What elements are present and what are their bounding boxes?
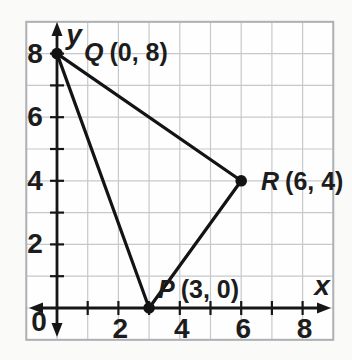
coordinate-plane-svg: 246886420xyQ(0, 8)R(6, 4)P(3, 0) [0,0,352,360]
point-label-P: P(3, 0) [158,275,239,303]
x-tick-label-8: 8 [297,313,313,344]
x-tick-label-4: 4 [174,313,190,344]
point-dot-R [235,175,247,187]
triangle-pqr-coordinate-figure: 246886420xyQ(0, 8)R(6, 4)P(3, 0) [0,0,352,360]
origin-label: 0 [31,306,47,337]
y-tick-label-6: 6 [27,101,43,132]
x-tick-label-2: 2 [113,313,129,344]
y-tick-label-2: 2 [27,228,43,259]
y-axis-label: y [64,19,83,50]
point-dot-P [143,302,155,314]
y-tick-label-8: 8 [27,38,43,69]
point-dot-Q [51,48,63,60]
x-axis-label: x [312,270,331,301]
point-label-Q: Q(0, 8) [84,38,168,66]
x-tick-label-6: 6 [235,313,251,344]
point-label-R: R(6, 4) [261,167,343,195]
y-tick-label-4: 4 [27,165,43,196]
